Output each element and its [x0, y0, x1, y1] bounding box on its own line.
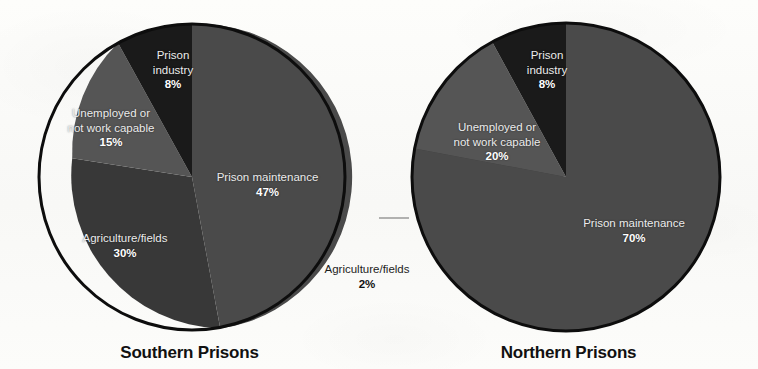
- label-percent: 47%: [256, 186, 279, 198]
- leader-line-agriculture: [379, 218, 409, 262]
- label-prison-industry: Prison industry 8%: [504, 48, 590, 92]
- label-percent: 2%: [359, 278, 376, 290]
- label-percent: 8%: [539, 78, 556, 90]
- label-agriculture-fields-external: Agriculture/fields 2%: [317, 262, 417, 291]
- label-percent: 15%: [99, 136, 122, 148]
- label-text-line1: Prison: [157, 49, 190, 61]
- label-unemployed: Unemployed or not work capable 20%: [421, 120, 573, 164]
- label-text-line1: Unemployed or: [458, 121, 536, 133]
- label-text: Prison maintenance: [583, 217, 685, 229]
- chart-title-southern: Southern Prisons: [0, 343, 379, 363]
- label-text-line2: not work capable: [68, 122, 155, 134]
- label-text-line2: industry: [153, 64, 193, 76]
- label-agriculture-fields: Agriculture/fields 30%: [55, 231, 195, 260]
- label-text: Agriculture/fields: [82, 232, 167, 244]
- chart-figure: Prison maintenance 47% Agriculture/field…: [0, 0, 758, 369]
- label-percent: 70%: [622, 232, 645, 244]
- label-prison-maintenance: Prison maintenance 70%: [559, 216, 709, 245]
- label-unemployed: Unemployed or not work capable 15%: [39, 106, 183, 150]
- chart-title-northern: Northern Prisons: [379, 343, 758, 363]
- chart-northern-prisons: Prison maintenance 70% Unemployed or not…: [379, 0, 758, 369]
- label-prison-industry: Prison industry 8%: [130, 48, 216, 92]
- label-percent: 20%: [485, 150, 508, 162]
- label-text-line2: not work capable: [454, 136, 541, 148]
- label-prison-maintenance: Prison maintenance 47%: [195, 170, 340, 199]
- label-text: Prison maintenance: [217, 171, 319, 183]
- label-text-line1: Prison: [531, 49, 564, 61]
- chart-southern-prisons: Prison maintenance 47% Agriculture/field…: [0, 0, 379, 369]
- label-percent: 8%: [165, 78, 182, 90]
- label-text: Agriculture/fields: [324, 263, 409, 275]
- label-text-line2: industry: [527, 64, 567, 76]
- label-percent: 30%: [113, 247, 136, 259]
- label-text-line1: Unemployed or: [72, 107, 150, 119]
